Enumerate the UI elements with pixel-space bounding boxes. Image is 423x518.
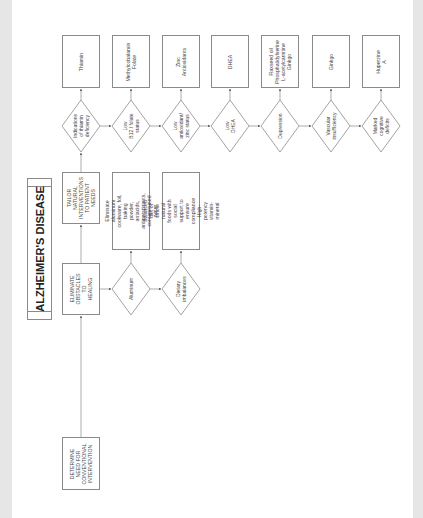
step-tailor: TAILOR NATURAL INTERVENTIONS TO PATIENT … [62,172,100,224]
intervention-vascular: Ginkgo [312,35,350,88]
intervention-depression: Flaxseed oil Phosphatidylserine L-acetyl… [261,35,299,88]
condition-vascular: Vascular insufficiency [325,112,337,139]
condition-b12: Low B12 / folate status [122,113,140,138]
intervention-b12: Methylcobalamin Folate [112,35,150,88]
intervention-dhea: DHEA [211,35,249,88]
step-determine: DETERMINE NEED FOR CONVENTIONAL INTERVEN… [62,437,100,490]
condition-aluminum: Aluminum [128,278,134,300]
step-eliminate: ELIMINATE OBSTACLES TO HEALING [62,263,100,315]
intervention-dietary: Balanced diet of whole natural foods wit… [162,172,200,250]
intervention-thiamin: Thiamin [62,35,100,88]
condition-cognitive: Marked cognitive deficits [372,116,390,136]
diagram-title: ALZHEIMER'S DISEASE [27,178,52,320]
condition-depression: Depression [277,113,283,138]
condition-thiamin: Indications of thiamin deficiency [72,114,90,138]
condition-dietary: Dietary imbalances [175,276,187,301]
condition-zinc: Low antioxidant/ zinc status [172,113,190,139]
title-text: ALZHEIMER'S DISEASE [34,186,46,311]
condition-dhea: Low DHEA [224,119,236,133]
intervention-zinc: Zinc Antioxidants [162,35,200,88]
intervention-cognitive: Huperzine A [362,35,400,88]
diagram-page: ALZHEIMER'S DISEASE DETERMINE NEED FOR C… [12,0,413,518]
